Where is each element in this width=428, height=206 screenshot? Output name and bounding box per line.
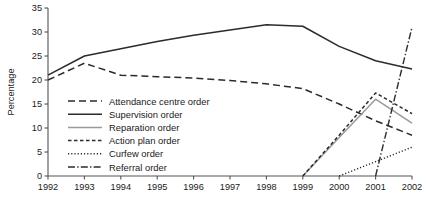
x-tick-label: 1996 <box>183 182 203 192</box>
series-line-curfew-order <box>339 147 412 176</box>
x-tick-label: 1997 <box>220 182 240 192</box>
legend-label-2: Reparation order <box>109 122 179 133</box>
x-tick-label: 1998 <box>256 182 276 192</box>
legend-label-5: Referral order <box>109 162 167 173</box>
y-tick-label: 0 <box>37 171 42 181</box>
series-line-referral-order <box>376 27 412 176</box>
x-tick-label: 1995 <box>147 182 167 192</box>
y-axis-label: Percentage <box>6 69 16 116</box>
series-line-reparation-order <box>303 99 412 176</box>
chart-canvas: 0510152025303519921993199419951996199719… <box>0 0 428 206</box>
legend-label-0: Attendance centre order <box>109 96 210 107</box>
x-tick-label: 2001 <box>365 182 385 192</box>
y-tick-label: 20 <box>32 75 42 85</box>
x-tick-label: 1994 <box>111 182 131 192</box>
x-tick-label: 1992 <box>38 182 58 192</box>
y-tick-label: 25 <box>32 51 42 61</box>
y-tick-label: 15 <box>32 99 42 109</box>
x-tick-label: 1993 <box>74 182 94 192</box>
y-tick-label: 5 <box>37 147 42 157</box>
line-chart: 0510152025303519921993199419951996199719… <box>0 0 428 206</box>
series-line-attendance-centre-order <box>48 63 412 135</box>
y-tick-label: 30 <box>32 27 42 37</box>
legend-label-1: Supervision order <box>109 109 182 120</box>
y-tick-label: 10 <box>32 123 42 133</box>
legend-label-4: Curfew order <box>109 148 163 159</box>
y-tick-label: 35 <box>32 3 42 13</box>
series-line-supervision-order <box>48 25 412 75</box>
x-tick-label: 2000 <box>329 182 349 192</box>
x-tick-label: 2002 <box>402 182 422 192</box>
legend-label-3: Action plan order <box>109 135 180 146</box>
series-line-action-plan-order <box>303 93 412 176</box>
x-tick-label: 1999 <box>293 182 313 192</box>
